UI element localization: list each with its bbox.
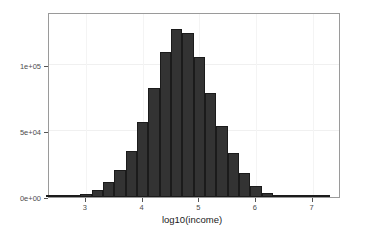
histogram-bar <box>126 151 137 197</box>
histogram-bar <box>262 193 273 197</box>
histogram-chart: 0e+005e+041e+05 34567 log10(income) <box>0 0 384 236</box>
plot-panel <box>48 13 340 198</box>
histogram-bar <box>284 195 295 197</box>
histogram-bar <box>318 195 329 197</box>
histogram-bar <box>307 195 318 197</box>
histogram-bar <box>228 153 239 197</box>
bar-series <box>49 14 339 197</box>
y-tick-mark-1 <box>44 132 48 133</box>
x-tick-mark-0 <box>85 198 86 202</box>
x-tick-label-3: 6 <box>253 203 257 212</box>
x-axis-title: log10(income) <box>0 214 384 225</box>
y-tick-mark-2 <box>44 66 48 67</box>
histogram-bar <box>171 29 182 197</box>
x-tick-label-0: 3 <box>83 203 87 212</box>
x-tick-label-4: 7 <box>310 203 314 212</box>
histogram-bar <box>194 57 205 197</box>
y-tick-label-1: 5e+04 <box>20 127 41 136</box>
histogram-bar <box>160 52 171 197</box>
histogram-bar <box>239 173 250 197</box>
histogram-bar <box>296 195 307 197</box>
histogram-bar <box>69 195 80 197</box>
histogram-bar <box>148 88 159 197</box>
x-tick-mark-4 <box>312 198 313 202</box>
histogram-bar <box>114 170 125 197</box>
y-tick-label-2: 1e+05 <box>20 61 41 70</box>
histogram-bar <box>250 186 261 197</box>
histogram-bar <box>273 195 284 197</box>
x-tick-mark-3 <box>255 198 256 202</box>
y-tick-mark-0 <box>44 198 48 199</box>
x-tick-mark-1 <box>142 198 143 202</box>
histogram-bar <box>103 182 114 197</box>
histogram-bar <box>58 195 69 197</box>
histogram-bar <box>80 194 91 197</box>
histogram-bar <box>92 190 103 197</box>
histogram-bar <box>137 122 148 197</box>
x-tick-label-1: 4 <box>139 203 143 212</box>
y-tick-label-0: 0e+00 <box>20 194 41 203</box>
x-tick-mark-2 <box>198 198 199 202</box>
histogram-bar <box>205 93 216 197</box>
histogram-bar <box>182 33 193 197</box>
x-tick-label-2: 5 <box>196 203 200 212</box>
histogram-bar <box>46 195 57 197</box>
histogram-bar <box>216 126 227 197</box>
